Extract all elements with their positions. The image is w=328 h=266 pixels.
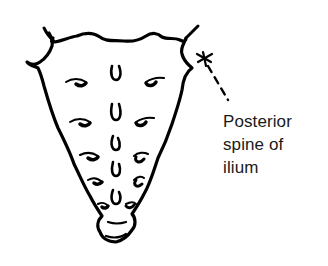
median-crest-1 — [111, 66, 120, 80]
label-line-3: ilium — [223, 156, 292, 179]
median-crest-4 — [112, 162, 120, 176]
sacrum-outline — [27, 33, 192, 242]
label-line-2: spine of — [223, 133, 292, 156]
leader-line-dashed — [208, 66, 228, 100]
coccyx-band-1 — [108, 222, 126, 224]
structure-label: Posterior spine of ilium — [223, 110, 292, 179]
pointer-star-icon — [197, 52, 212, 66]
left-ala-lip — [44, 28, 53, 40]
coccyx-band-2 — [106, 234, 126, 237]
right-foramina — [126, 78, 164, 208]
right-ala-tip — [186, 26, 198, 38]
label-line-1: Posterior — [223, 110, 292, 133]
sacrum-diagram: Posterior spine of ilium — [0, 0, 328, 266]
median-crest-3 — [112, 136, 120, 150]
median-crest-2 — [111, 104, 120, 120]
median-crest-5 — [112, 190, 121, 204]
